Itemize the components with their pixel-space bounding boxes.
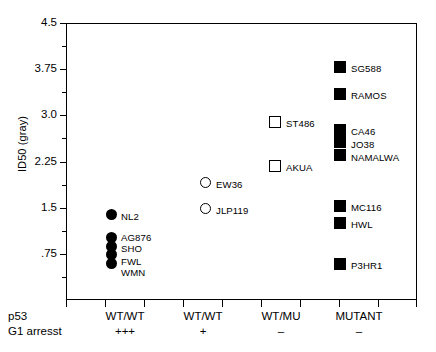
row-label-g1-arrest: G1 arresst <box>8 325 62 337</box>
data-label-akua: AKUA <box>286 162 313 173</box>
data-label-mc116: MC116 <box>351 202 382 213</box>
y-tick-label-3-75: 3.75 <box>0 62 57 74</box>
x-tick-6 <box>300 300 301 307</box>
data-point-jlp119 <box>200 203 211 214</box>
data-point-nl2 <box>106 209 117 220</box>
data-label-ramos: RAMOS <box>351 90 387 101</box>
x-tick-5 <box>261 300 262 307</box>
x-category-label-1-arrest: + <box>200 325 207 337</box>
data-point-ca46 <box>334 124 346 136</box>
y-tick-label-4-5: 4.5 <box>0 16 57 28</box>
row-label-p53: p53 <box>8 310 27 322</box>
x-category-label-3-arrest: – <box>356 325 362 337</box>
data-point-p3hr1 <box>334 258 346 270</box>
data-label-sg588: SG588 <box>351 63 381 74</box>
data-label-wmn: WMN <box>121 267 145 278</box>
x-category-label-3-genotype: MUTANT <box>335 310 382 322</box>
x-tick-0 <box>66 300 67 307</box>
data-point-hwl <box>334 217 346 229</box>
x-tick-7 <box>339 300 340 307</box>
x-tick-3 <box>183 300 184 307</box>
data-label-sho: SHO <box>121 243 142 254</box>
y-tick-label-3-0: 3.0 <box>0 108 57 120</box>
data-label-nl2: NL2 <box>121 211 139 222</box>
x-category-label-0-genotype: WT/WT <box>106 310 145 322</box>
y-tick-label-1-5: 1.5 <box>0 201 57 213</box>
data-label-hwl: HWL <box>351 219 373 230</box>
data-point-mc116 <box>334 200 346 212</box>
data-label-jo38: JO38 <box>351 139 374 150</box>
x-category-label-2-arrest: – <box>278 325 284 337</box>
data-label-ew36: EW36 <box>216 179 243 190</box>
data-point-wmn <box>106 258 117 269</box>
data-label-ca46: CA46 <box>351 126 375 137</box>
x-tick-8 <box>378 300 379 307</box>
data-point-sg588 <box>334 61 346 73</box>
x-tick-2 <box>144 300 145 307</box>
scatter-plot-figure: ID50 (gray) 4.5 3.75 3.0 2.25 1.5 .75 p5… <box>0 0 436 352</box>
data-label-jlp119: JLP119 <box>216 205 248 216</box>
data-point-namalwa <box>334 149 346 161</box>
x-category-label-1-genotype: WT/WT <box>184 310 223 322</box>
data-label-p3hr1: P3HR1 <box>351 260 382 271</box>
x-tick-4 <box>222 300 223 307</box>
x-category-label-0-arrest: +++ <box>115 325 135 337</box>
data-label-namalwa: NAMALWA <box>351 152 399 163</box>
x-tick-9 <box>416 300 417 307</box>
y-tick-label-0-75: .75 <box>0 247 57 259</box>
data-label-fwl: FWL <box>121 256 142 267</box>
data-point-ramos <box>334 88 346 100</box>
data-label-ag876: AG876 <box>121 232 151 243</box>
data-point-st486 <box>269 116 281 128</box>
y-axis-title: ID50 (gray) <box>16 84 28 204</box>
data-point-ew36 <box>200 177 211 188</box>
data-point-jo38 <box>334 136 346 148</box>
data-label-st486: ST486 <box>286 118 315 129</box>
data-point-akua <box>269 160 281 172</box>
y-tick-label-2-25: 2.25 <box>0 155 57 167</box>
x-category-label-2-genotype: WT/MU <box>262 310 301 322</box>
x-tick-1 <box>105 300 106 307</box>
